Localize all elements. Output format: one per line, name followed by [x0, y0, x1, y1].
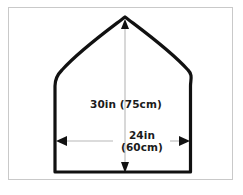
drawing-canvas: 30in (75cm) 24in (60cm) [0, 0, 243, 195]
width-dimension-label: 24in (60cm) [114, 130, 170, 154]
width-dimension-label-imperial: 24in [114, 130, 170, 142]
height-dimension-label: 30in (75cm) [90, 99, 162, 111]
width-dimension-label-metric: (60cm) [114, 142, 170, 154]
